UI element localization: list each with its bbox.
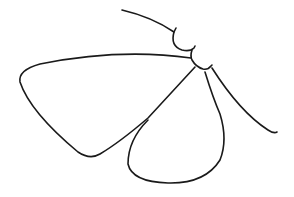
moth-drawing <box>0 0 294 197</box>
moth-antenna <box>122 10 174 32</box>
moth-head <box>173 28 195 51</box>
moth-illustration <box>0 0 294 197</box>
moth-thorax <box>191 50 212 69</box>
moth-forewing <box>20 54 195 156</box>
